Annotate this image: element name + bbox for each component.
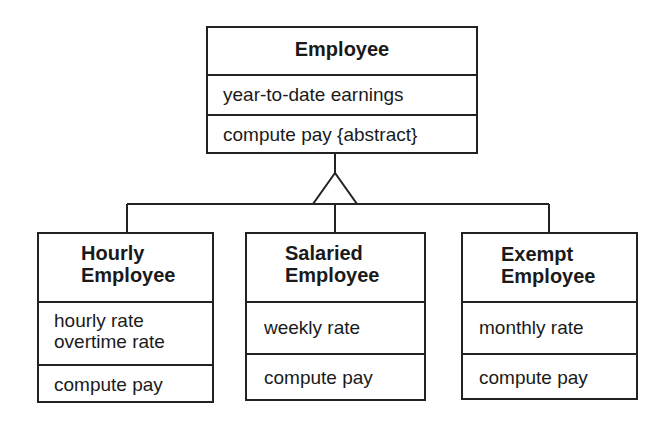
attributes-section: year-to-date earnings: [208, 74, 476, 114]
operations-section: compute pay {abstract}: [208, 114, 476, 154]
attribute: year-to-date earnings: [208, 76, 476, 105]
attributes-section: hourly rate overtime rate: [39, 301, 212, 364]
class-name-section: Exempt Employee: [463, 234, 636, 301]
class-hourly-employee[interactable]: Hourly Employee hourly rate overtime rat…: [37, 232, 214, 403]
class-name: Employee: [208, 28, 476, 60]
class-name-section: Employee: [208, 28, 476, 74]
class-salaried-employee[interactable]: Salaried Employee weekly rate compute pa…: [245, 232, 426, 401]
operation: compute pay: [247, 355, 424, 388]
class-exempt-employee[interactable]: Exempt Employee monthly rate compute pay: [461, 232, 638, 400]
class-name-line2: Employee: [39, 264, 212, 286]
class-name-line1: Hourly: [39, 234, 212, 264]
class-name-section: Salaried Employee: [247, 234, 424, 301]
class-name-line1: Salaried: [247, 234, 424, 264]
attributes-section: weekly rate: [247, 301, 424, 353]
attributes-section: monthly rate: [463, 301, 636, 353]
inheritance-triangle-icon: [313, 173, 357, 204]
operations-section: compute pay: [247, 353, 424, 401]
operation: compute pay: [463, 355, 636, 388]
attribute: hourly rate: [39, 303, 212, 331]
attribute: monthly rate: [463, 303, 636, 338]
operations-section: compute pay: [463, 353, 636, 400]
operations-section: compute pay: [39, 364, 212, 403]
class-name-section: Hourly Employee: [39, 234, 212, 301]
class-name-line2: Employee: [247, 264, 424, 286]
class-name-line1: Exempt: [463, 234, 636, 265]
operation: compute pay: [39, 366, 212, 395]
class-employee[interactable]: Employee year-to-date earnings compute p…: [206, 26, 478, 154]
class-name-line2: Employee: [463, 265, 636, 287]
operation: compute pay {abstract}: [208, 116, 476, 145]
attribute: weekly rate: [247, 303, 424, 338]
attribute: overtime rate: [39, 331, 212, 352]
